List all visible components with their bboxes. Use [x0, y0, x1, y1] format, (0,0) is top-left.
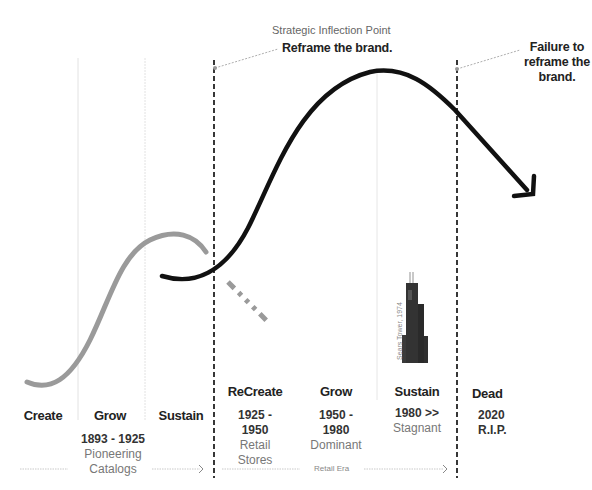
- failure-marker: [455, 67, 459, 71]
- phase-recreate: ReCreate: [222, 384, 288, 399]
- failure-line-3: brand.: [522, 70, 592, 85]
- failure-leader: [457, 50, 520, 69]
- inflection-marker: [213, 66, 217, 70]
- phase-grow-1-desc: Pioneering Catalogs: [68, 447, 158, 477]
- desc-line: Retail: [222, 438, 288, 453]
- skyscraper-icon: [402, 272, 428, 363]
- phase-grow-1-years: 1893 - 1925: [68, 432, 158, 447]
- desc-line: Pioneering: [68, 447, 158, 462]
- phase-recreate-years: 1925 - 1950: [222, 408, 288, 438]
- phase-grow-2-desc: Dominant: [300, 438, 372, 453]
- phase-sustain-2: Sustain: [386, 384, 448, 399]
- phase-create: Create: [15, 408, 71, 423]
- phase-sustain-2-desc: Stagnant: [382, 421, 452, 436]
- phase-dead-info: 2020 R.I.P.: [478, 408, 522, 438]
- phase-dead: Dead: [472, 386, 516, 401]
- decline-dashed-curve: [228, 282, 268, 322]
- second-lifecycle-curve: [162, 71, 527, 279]
- years-line: 2020: [478, 408, 522, 423]
- phase-grow-2-years: 1950 - 1980: [306, 408, 366, 438]
- phase-sustain-1: Sustain: [152, 408, 210, 423]
- phase-sustain-2-years: 1980 >>: [386, 406, 448, 421]
- desc-line: Stores: [222, 453, 288, 468]
- years-line: 1925 -: [222, 408, 288, 423]
- phase-recreate-desc: Retail Stores: [222, 438, 288, 468]
- years-line: 1980: [306, 423, 366, 438]
- phase-grow-1: Grow: [82, 408, 138, 423]
- tower-label: Sears Tower, 1974: [396, 302, 403, 360]
- failure-annotation: Failure to reframe the brand.: [522, 40, 592, 85]
- retail-era-label: Retail Era: [314, 464, 349, 473]
- inflection-action: Reframe the brand.: [282, 41, 392, 55]
- inflection-title: Strategic Inflection Point: [272, 24, 391, 36]
- desc-line: Catalogs: [68, 462, 158, 477]
- years-line: 1950 -: [306, 408, 366, 423]
- years-line: 1950: [222, 423, 288, 438]
- inflection-leader: [215, 49, 278, 68]
- era-arrowhead-2: [443, 465, 447, 473]
- years-line: R.I.P.: [478, 423, 522, 438]
- failure-line-1: Failure to: [522, 40, 592, 55]
- first-lifecycle-curve: [27, 234, 206, 385]
- phase-grow-2: Grow: [306, 384, 366, 399]
- failure-line-2: reframe the: [522, 55, 592, 70]
